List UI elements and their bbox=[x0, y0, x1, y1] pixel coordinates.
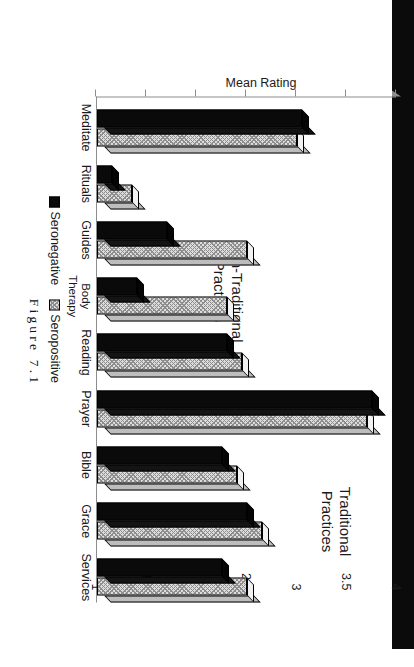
bar-side-face bbox=[104, 520, 261, 527]
bar-group bbox=[97, 378, 396, 434]
figure-canvas: 43.532.521.51 Mean Rating Non-Traditiona… bbox=[0, 0, 414, 667]
bar-front-face bbox=[97, 446, 222, 464]
bar-seronegative[interactable] bbox=[97, 558, 222, 576]
value-axis-tick bbox=[345, 89, 346, 96]
bar-seronegative[interactable] bbox=[97, 502, 247, 520]
bar-group bbox=[97, 266, 396, 322]
chart-legend: SeronegativeSeropositive bbox=[48, 196, 62, 382]
bar-side-face bbox=[104, 202, 146, 209]
bar-side-face bbox=[104, 576, 236, 583]
bar-group bbox=[97, 97, 396, 153]
legend-swatch-seropositive bbox=[50, 299, 61, 310]
bar-front-face bbox=[97, 109, 302, 127]
y-axis-title: Mean Rating bbox=[191, 75, 331, 89]
bar-group bbox=[97, 153, 396, 209]
bar-front-face bbox=[97, 502, 247, 520]
bar-side-face bbox=[104, 258, 261, 265]
bar-seronegative[interactable] bbox=[97, 165, 112, 183]
bar-group bbox=[97, 209, 396, 265]
category-label: Grace bbox=[79, 504, 92, 538]
bar-front-face bbox=[97, 558, 222, 576]
bar-side-face bbox=[104, 146, 311, 153]
category-label: Body Therapy bbox=[66, 275, 92, 317]
annotation-traditional-practices: Traditional Practices bbox=[318, 446, 354, 596]
legend-item[interactable]: Seropositive bbox=[48, 299, 62, 383]
category-tick-labels: MeditateRitualsGuidesBody TherapyReading… bbox=[58, 97, 92, 603]
bar-seronegative[interactable] bbox=[97, 446, 222, 464]
bar-front-face bbox=[97, 165, 112, 183]
bar-front-face bbox=[97, 221, 167, 239]
axis-break-wedge bbox=[392, 90, 401, 96]
bar-side-face bbox=[104, 464, 236, 471]
bar-side-face bbox=[104, 127, 316, 134]
bar-side-face bbox=[104, 595, 261, 602]
value-axis-tick bbox=[245, 89, 246, 96]
category-label: Services bbox=[79, 553, 92, 601]
scanned-page: 43.532.521.51 Mean Rating Non-Traditiona… bbox=[0, 0, 414, 667]
bar-side-face bbox=[104, 314, 241, 321]
bar-seronegative[interactable] bbox=[97, 390, 372, 408]
bar-side-face bbox=[104, 351, 241, 358]
bar-seronegative[interactable] bbox=[97, 221, 167, 239]
legend-label: Seronegative bbox=[48, 211, 62, 285]
bar-front-face bbox=[97, 333, 227, 351]
bar-seronegative[interactable] bbox=[97, 277, 137, 295]
legend-swatch-seronegative bbox=[50, 196, 61, 207]
plot-area: 43.532.521.51 Mean Rating Non-Traditiona… bbox=[96, 96, 396, 602]
category-label: Prayer bbox=[79, 390, 92, 427]
value-axis-tick bbox=[395, 89, 396, 96]
category-label: Rituals bbox=[79, 164, 92, 202]
bar-seronegative[interactable] bbox=[97, 333, 227, 351]
value-axis-tick bbox=[145, 89, 146, 96]
category-label: Reading bbox=[79, 329, 92, 376]
bar-side-face bbox=[104, 539, 276, 546]
legend-item[interactable]: Seronegative bbox=[48, 196, 62, 285]
bar-group bbox=[97, 322, 396, 378]
bar-side-face bbox=[104, 370, 256, 377]
value-axis-tick bbox=[195, 89, 196, 96]
legend-label: Seropositive bbox=[48, 314, 62, 383]
category-label: Guides bbox=[79, 220, 92, 260]
bar-side-face bbox=[104, 427, 381, 434]
bar-seronegative[interactable] bbox=[97, 109, 302, 127]
value-axis-tick bbox=[95, 89, 96, 96]
bar-side-face bbox=[104, 408, 386, 415]
bar-side-face bbox=[104, 483, 251, 490]
bar-front-face bbox=[97, 390, 372, 408]
bar-front-face bbox=[97, 277, 137, 295]
category-label: Bible bbox=[79, 451, 92, 479]
value-axis-tick bbox=[295, 89, 296, 96]
category-label: Meditate bbox=[79, 103, 92, 151]
figure-caption: Figure 7.1 bbox=[26, 232, 42, 452]
